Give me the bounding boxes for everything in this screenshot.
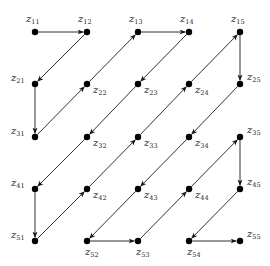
edge-z51-to-z42	[37, 192, 84, 239]
label-z14: z14	[179, 13, 194, 26]
label-z25: z25	[246, 71, 261, 84]
label-z44: z44	[194, 189, 209, 202]
label-z52: z52	[84, 246, 99, 259]
node-z14	[186, 29, 192, 35]
node-z25	[237, 81, 243, 87]
edge-z32-to-z41	[38, 139, 85, 186]
node-z52	[84, 238, 90, 244]
label-z33: z33	[143, 137, 158, 150]
node-z12	[84, 29, 90, 35]
node-z53	[135, 238, 141, 244]
label-z54: z54	[186, 246, 201, 259]
node-z32	[84, 134, 90, 140]
node-z22	[84, 81, 90, 87]
node-z23	[135, 81, 141, 87]
node-z31	[32, 134, 38, 140]
edge-z12-to-z21	[38, 34, 85, 81]
node-z44	[186, 186, 192, 192]
label-z34: z34	[194, 137, 209, 150]
edge-z31-to-z22	[37, 87, 84, 135]
label-z51: z51	[10, 229, 25, 242]
label-z43: z43	[143, 189, 158, 202]
label-z55: z55	[246, 228, 261, 241]
node-z34	[186, 134, 192, 140]
node-z24	[186, 81, 192, 87]
label-z35: z35	[246, 124, 261, 137]
label-z22: z22	[92, 84, 107, 97]
label-z45: z45	[246, 176, 261, 189]
edge-z24-to-z15	[191, 35, 237, 82]
label-z12: z12	[77, 13, 92, 26]
node-z11	[32, 29, 38, 35]
node-z43	[135, 186, 141, 192]
label-z11: z11	[25, 13, 40, 26]
node-z54	[186, 238, 192, 244]
node-z15	[237, 29, 243, 35]
node-z35	[237, 134, 243, 140]
label-z23: z23	[143, 84, 158, 97]
label-z13: z13	[128, 13, 143, 26]
node-z33	[135, 134, 141, 140]
node-z41	[32, 186, 38, 192]
node-z13	[135, 29, 141, 35]
label-z53: z53	[135, 246, 150, 259]
label-z15: z15	[230, 13, 245, 26]
node-z21	[32, 81, 38, 87]
node-z51	[32, 238, 38, 244]
label-z41: z41	[10, 177, 25, 190]
node-z45	[237, 186, 243, 192]
zigzag-diagram: z11z12z13z14z15z21z22z23z24z25z31z32z33z…	[0, 0, 270, 266]
edge-z22-to-z13	[89, 35, 135, 82]
label-z32: z32	[92, 137, 107, 150]
label-z42: z42	[92, 189, 107, 202]
label-z21: z21	[10, 72, 25, 85]
label-z24: z24	[194, 84, 209, 97]
node-z55	[237, 238, 243, 244]
edge-z14-to-z23	[141, 34, 187, 81]
label-z31: z31	[10, 125, 25, 138]
node-z42	[84, 186, 90, 192]
